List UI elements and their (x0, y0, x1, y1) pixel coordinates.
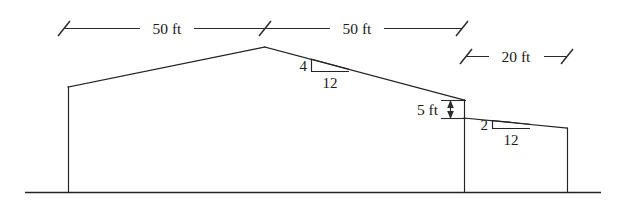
main-roof-right-slope (265, 47, 464, 100)
slope-label-lean-to-rise: 2 (481, 117, 489, 133)
slope-triangle-lean-to-hypotenuse (492, 121, 530, 125)
main-roof-left-slope (68, 47, 265, 87)
slope-label-main-rise: 4 (300, 58, 308, 74)
drawing-canvas: 50 ft 50 ft 20 ft 5 ft 4 12 2 12 (0, 0, 635, 212)
slope-triangle-main-hypotenuse (311, 59, 349, 69)
arrowhead-offset-top (447, 100, 454, 108)
arrowhead-offset-bottom (447, 111, 454, 119)
elevation-drawing: 50 ft 50 ft 20 ft 5 ft 4 12 2 12 (0, 0, 635, 212)
slope-label-main-run: 12 (323, 75, 338, 91)
slope-label-lean-to-run: 12 (504, 132, 519, 148)
dimension-label-lean-to-span: 20 ft (502, 48, 532, 65)
dimension-label-span-right: 50 ft (343, 20, 373, 37)
dimension-label-span-left: 50 ft (153, 20, 183, 37)
dimension-label-wall-offset: 5 ft (417, 101, 439, 118)
